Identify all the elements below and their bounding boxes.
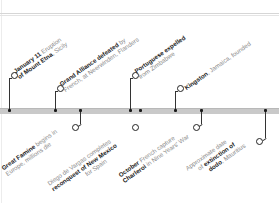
top-rule: [0, 13, 279, 16]
connector-line: [175, 91, 176, 109]
connector-line: [201, 112, 202, 124]
event-node-icon: [193, 124, 200, 131]
connector-line: [130, 78, 131, 109]
event-label-grand-alliance: Grand Alliance defeated by French, at Ne…: [58, 30, 140, 93]
left-border: [1, 0, 2, 203]
connector-line: [55, 91, 56, 109]
event-node-icon: [256, 138, 263, 145]
event-node-icon: [132, 124, 139, 131]
event-label-kingston: Kingston, Jamaica, founded: [183, 40, 252, 91]
event-label-etna: January 11 Eruption of Mount Etna, Sicil…: [12, 35, 68, 80]
event-label-dodo: Approximate date of extinction of dodo, …: [184, 130, 247, 183]
connector-line: [263, 138, 267, 141]
event-label-portuguese: Portuguese expelled from Zimbabwe: [133, 34, 191, 80]
connector-line: [9, 78, 10, 109]
event-label-charleroi: October French capture Charleroi in Nine…: [117, 127, 190, 184]
event-label-great-famine: Great Famine begins in Europe, millions …: [0, 128, 62, 177]
axis-tick: [54, 109, 57, 112]
axis-tick: [8, 109, 11, 112]
event-label-de-vargas: Diego de Vargas completes reconquest of …: [46, 136, 122, 198]
event-node-icon: [72, 124, 79, 131]
axis-tick: [174, 109, 177, 112]
connector-line: [265, 112, 266, 138]
axis-tick: [129, 109, 132, 112]
axis-tick: [139, 109, 142, 112]
connector-line: [80, 112, 81, 124]
